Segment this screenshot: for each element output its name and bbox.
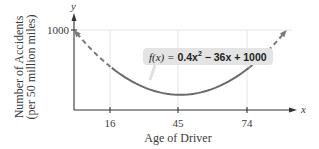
y-variable-label: y: [70, 0, 76, 12]
x-axis-arrow-icon: [289, 108, 297, 113]
function-term-quadratic: 0.4x: [177, 51, 197, 63]
curve-dashed-left: [77, 33, 112, 67]
chart-canvas: 16 45 74 1000 x y Age of Driver Number o…: [0, 0, 319, 149]
x-tick-label-45: 45: [173, 117, 185, 129]
equation-pointer: [150, 65, 155, 80]
x-axis-title: Age of Driver: [144, 131, 211, 145]
y-axis-arrow-icon: [72, 13, 77, 21]
function-expression: 0.4x2 − 36x + 1000: [177, 50, 266, 63]
x-tick-label-74: 74: [242, 117, 254, 129]
y-tick-label-1000: 1000: [47, 24, 70, 36]
function-name: f(x) =: [149, 51, 174, 63]
y-axis-title-line2: (per 50 million miles): [24, 15, 38, 120]
function-label: f(x) = 0.4x2 − 36x + 1000: [143, 48, 273, 65]
gridlines: [74, 30, 292, 110]
function-term-rest: − 36x + 1000: [202, 51, 267, 63]
x-variable-label: x: [300, 103, 306, 115]
x-tick-label-16: 16: [105, 117, 117, 129]
curve-solid: [112, 68, 249, 95]
y-axis-title: Number of Accidents (per 50 million mile…: [12, 15, 38, 120]
